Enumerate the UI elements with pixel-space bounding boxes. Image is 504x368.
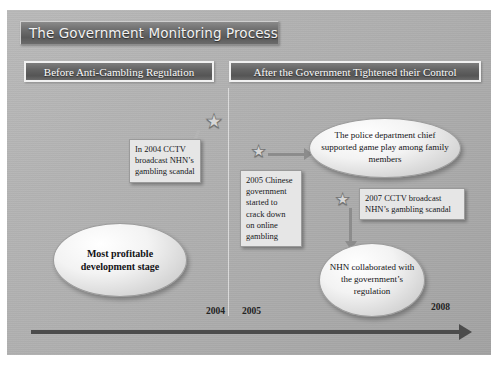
section-header-after-label: After the Government Tightened their Con…: [253, 66, 456, 78]
section-header-after: After the Government Tightened their Con…: [229, 61, 481, 82]
oval-police-department: The police department chief supported ga…: [309, 118, 461, 178]
timeline-year-2008: 2008: [431, 302, 450, 312]
connector-2007-to-nhn-line: [349, 208, 352, 244]
phase-divider: [228, 88, 229, 316]
oval-nhn-collaboration-label: NHN collaborated with the government’s r…: [320, 262, 424, 297]
section-header-before: Before Anti-Gambling Regulation: [24, 61, 214, 82]
connector-2005-to-police-line: [268, 153, 306, 156]
slide-title-banner: The Government Monitoring Process: [20, 21, 279, 45]
timeline-year-2004: 2004: [206, 306, 225, 316]
callout-2007: 2007 CCTV broadcast NHN’s gambling scand…: [359, 188, 465, 220]
oval-nhn-collaboration: NHN collaborated with the government’s r…: [319, 243, 425, 317]
callout-2005: 2005 Chinese government started to crack…: [240, 170, 302, 247]
callout-2004: In 2004 CCTV broadcast NHN’s gambling sc…: [129, 139, 201, 183]
timeline-arrow-icon: [459, 324, 472, 340]
page-title: The Government Monitoring Process: [21, 25, 278, 41]
section-header-before-label: Before Anti-Gambling Regulation: [44, 66, 194, 78]
slide-root: The Government Monitoring Process Before…: [0, 0, 504, 368]
star-icon-2007: ★: [335, 191, 350, 208]
oval-most-profitable-stage: Most profitable development stage: [53, 223, 187, 297]
star-icon-2004: ★: [205, 111, 223, 131]
oval-most-profitable-stage-label: Most profitable development stage: [54, 247, 186, 273]
timeline-year-2005: 2005: [242, 306, 261, 316]
slide-canvas: The Government Monitoring Process Before…: [7, 10, 491, 355]
timeline-axis: [31, 330, 461, 334]
star-icon-2005: ★: [251, 143, 266, 160]
oval-police-department-label: The police department chief supported ga…: [310, 130, 460, 165]
